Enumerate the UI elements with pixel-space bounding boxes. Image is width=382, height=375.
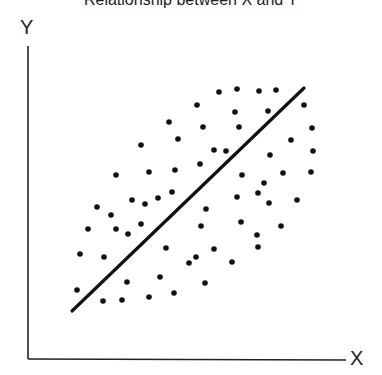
data-point xyxy=(101,254,107,260)
data-point xyxy=(129,197,135,203)
data-point xyxy=(146,169,152,175)
data-point xyxy=(194,102,200,108)
data-point xyxy=(125,231,131,237)
data-point xyxy=(308,169,314,175)
data-point xyxy=(294,197,300,203)
data-point xyxy=(157,274,163,280)
data-point xyxy=(255,244,261,250)
data-point xyxy=(142,201,148,207)
data-point xyxy=(171,290,177,296)
data-point xyxy=(229,259,235,265)
data-point xyxy=(239,172,245,178)
data-point xyxy=(108,212,114,218)
data-point xyxy=(288,137,294,143)
data-point xyxy=(278,223,284,229)
data-points xyxy=(74,86,316,304)
data-point xyxy=(202,280,208,286)
data-point xyxy=(155,195,161,201)
data-point xyxy=(77,251,83,257)
data-point xyxy=(94,204,100,210)
data-point xyxy=(198,223,204,229)
data-point xyxy=(85,226,91,232)
data-point xyxy=(310,148,316,154)
data-point xyxy=(138,142,144,148)
data-point xyxy=(301,102,307,108)
data-point xyxy=(216,89,222,95)
data-point xyxy=(186,260,192,266)
data-point xyxy=(166,119,172,125)
data-point xyxy=(255,190,261,196)
data-point xyxy=(223,148,229,154)
data-point xyxy=(273,87,279,93)
scatter-plot xyxy=(0,0,382,375)
data-point xyxy=(234,194,240,200)
data-point xyxy=(280,170,286,176)
data-point xyxy=(266,200,272,206)
data-point xyxy=(238,219,244,225)
data-point xyxy=(309,125,315,131)
data-point xyxy=(172,167,178,173)
data-point xyxy=(211,246,217,252)
data-point xyxy=(232,109,238,115)
data-point xyxy=(100,298,106,304)
data-point xyxy=(211,147,217,153)
data-point xyxy=(74,287,80,293)
trend-line xyxy=(72,88,304,311)
data-point xyxy=(200,124,206,130)
data-point xyxy=(146,294,152,300)
data-point xyxy=(261,180,267,186)
data-point xyxy=(265,108,271,114)
data-point xyxy=(113,172,119,178)
data-point xyxy=(203,206,209,212)
data-point xyxy=(138,221,144,227)
data-point xyxy=(113,226,119,232)
data-point xyxy=(175,136,181,142)
data-point xyxy=(124,279,130,285)
data-point xyxy=(234,86,240,92)
x-axis xyxy=(28,359,346,360)
data-point xyxy=(193,254,199,260)
data-point xyxy=(197,161,203,167)
data-point xyxy=(169,189,175,195)
data-point xyxy=(119,297,125,303)
data-point xyxy=(236,124,242,130)
data-point xyxy=(256,88,262,94)
data-point xyxy=(254,232,260,238)
data-point xyxy=(267,152,273,158)
data-point xyxy=(163,245,169,251)
